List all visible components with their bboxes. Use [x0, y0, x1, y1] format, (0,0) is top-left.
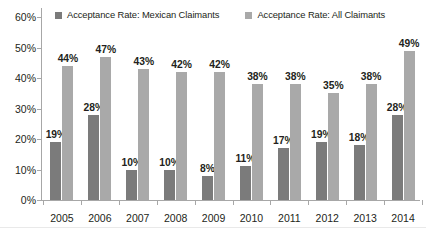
bar-acceptance-rate-all-claimants-2012[interactable]	[328, 93, 339, 200]
x-tick-mark	[346, 200, 347, 205]
bar-acceptance-rate-all-claimants-2006[interactable]	[100, 57, 111, 200]
y-tick-label: 20%	[15, 134, 36, 145]
bar-value-label: 49%	[399, 39, 420, 49]
bar-acceptance-rate-all-claimants-2008[interactable]	[176, 72, 187, 200]
x-category-label-2006: 2006	[88, 213, 111, 224]
x-tick-mark	[195, 200, 196, 205]
bar-acceptance-rate-all-claimants-2007[interactable]	[138, 69, 149, 200]
y-tick-mark	[37, 78, 42, 79]
x-category-label-2011: 2011	[278, 213, 301, 224]
y-tick-mark	[37, 48, 42, 49]
x-tick-mark	[308, 200, 309, 205]
bar-value-label: 43%	[133, 57, 154, 67]
bar-acceptance-rate-mexican-claimants-2010[interactable]	[240, 166, 251, 200]
x-axis-line	[41, 200, 420, 201]
bar-value-label: 38%	[285, 72, 306, 82]
bar-acceptance-rate-all-claimants-2009[interactable]	[214, 72, 225, 200]
bar-acceptance-rate-mexican-claimants-2013[interactable]	[354, 145, 365, 200]
x-tick-mark	[384, 200, 385, 205]
x-tick-mark	[43, 200, 44, 205]
x-tick-mark	[233, 200, 234, 205]
bar-acceptance-rate-mexican-claimants-2014[interactable]	[392, 115, 403, 200]
bar-value-label: 38%	[361, 72, 382, 82]
x-category-label-2012: 2012	[316, 213, 339, 224]
bar-acceptance-rate-mexican-claimants-2011[interactable]	[278, 148, 289, 200]
x-category-label-2014: 2014	[391, 213, 414, 224]
bar-value-label: 42%	[171, 60, 192, 70]
x-category-label-2008: 2008	[164, 213, 187, 224]
bottom-divider	[0, 227, 426, 228]
bar-acceptance-rate-mexican-claimants-2007[interactable]	[126, 170, 137, 201]
y-tick-mark	[37, 17, 42, 18]
x-category-label-2009: 2009	[202, 213, 225, 224]
bar-value-label: 42%	[209, 60, 230, 70]
x-tick-mark	[422, 200, 423, 205]
y-tick-mark	[37, 139, 42, 140]
x-category-label-2007: 2007	[126, 213, 149, 224]
bar-chart: Acceptance Rate: Mexican ClaimantsAccept…	[0, 0, 426, 231]
bar-acceptance-rate-all-claimants-2005[interactable]	[62, 66, 73, 200]
y-tick-label: 50%	[15, 42, 36, 53]
x-category-label-2005: 2005	[50, 213, 73, 224]
y-tick-label: 60%	[15, 12, 36, 23]
bar-value-label: 35%	[323, 81, 344, 91]
y-tick-label: 40%	[15, 73, 36, 84]
bar-value-label: 47%	[96, 45, 117, 55]
bar-acceptance-rate-mexican-claimants-2009[interactable]	[202, 176, 213, 200]
plot-area: 0%10%20%30%40%50%60% 19%44%28%47%10%43%1…	[41, 8, 420, 201]
x-tick-mark	[81, 200, 82, 205]
bar-acceptance-rate-mexican-claimants-2008[interactable]	[164, 170, 175, 201]
bar-acceptance-rate-mexican-claimants-2012[interactable]	[316, 142, 327, 200]
bar-acceptance-rate-all-claimants-2010[interactable]	[252, 84, 263, 200]
bar-value-label: 44%	[58, 54, 79, 64]
x-category-label-2013: 2013	[353, 213, 376, 224]
y-axis-line	[41, 8, 42, 201]
bar-value-label: 38%	[247, 72, 268, 82]
x-tick-mark	[157, 200, 158, 205]
y-tick-mark	[37, 109, 42, 110]
y-tick-label: 10%	[15, 164, 36, 175]
bar-acceptance-rate-all-claimants-2013[interactable]	[366, 84, 377, 200]
bar-acceptance-rate-mexican-claimants-2006[interactable]	[88, 115, 99, 200]
x-category-label-2010: 2010	[240, 213, 263, 224]
bar-value-label: 8%	[200, 164, 215, 174]
bar-acceptance-rate-all-claimants-2011[interactable]	[290, 84, 301, 200]
bar-acceptance-rate-all-claimants-2014[interactable]	[404, 51, 415, 200]
bar-acceptance-rate-mexican-claimants-2005[interactable]	[50, 142, 61, 200]
y-tick-label: 0%	[21, 195, 36, 206]
x-tick-mark	[270, 200, 271, 205]
x-tick-mark	[119, 200, 120, 205]
y-tick-mark	[37, 200, 42, 201]
y-tick-mark	[37, 170, 42, 171]
y-tick-label: 30%	[15, 103, 36, 114]
